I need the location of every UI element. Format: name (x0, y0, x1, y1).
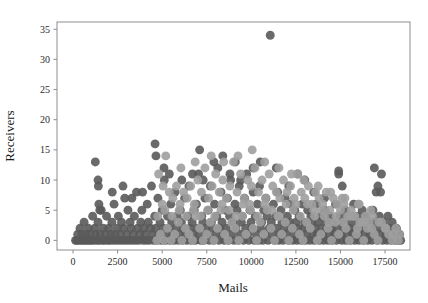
scatter-point (165, 170, 174, 179)
scatter-point (172, 182, 181, 191)
scatter-point (266, 31, 275, 40)
scatter-point (168, 194, 177, 203)
x-tick-label: 0 (71, 256, 76, 267)
scatter-point (193, 176, 202, 185)
scatter-point (224, 236, 233, 245)
scatter-point (94, 182, 103, 191)
plot-canvas: 025005000750010000125001500017500 051015… (0, 0, 428, 303)
scatter-point (108, 188, 117, 197)
scatter-point (234, 151, 243, 160)
scatter-point (277, 230, 286, 239)
scatter-point (359, 236, 368, 245)
x-tick-label: 5000 (152, 256, 172, 267)
scatter-point (299, 176, 308, 185)
scatter-point (338, 182, 347, 191)
scatter-point (209, 236, 218, 245)
x-tick-label: 2500 (108, 256, 128, 267)
scatter-point (249, 224, 258, 233)
scatter-point (151, 139, 160, 148)
scatter-point (275, 212, 284, 221)
scatter-point (188, 236, 197, 245)
scatter-point (376, 188, 385, 197)
scatter-point (208, 182, 217, 191)
scatter-point (310, 212, 319, 221)
scatter-point (267, 206, 276, 215)
scatter-point (138, 188, 147, 197)
scatter-point (119, 182, 128, 191)
scatter-point (250, 164, 259, 173)
scatter-point (160, 206, 169, 215)
scatter-point (153, 212, 162, 221)
scatter-point (339, 218, 348, 227)
scatter-point (236, 170, 245, 179)
scatter-point (195, 224, 204, 233)
scatter-point (327, 236, 336, 245)
scatter-point (143, 200, 152, 209)
scatter-point (127, 194, 136, 203)
scatter-point (207, 151, 216, 160)
scatter-point (170, 230, 179, 239)
scatter-point (233, 188, 242, 197)
scatter-point (303, 200, 312, 209)
x-axis-title: Mails (218, 280, 248, 295)
scatter-point (91, 157, 100, 166)
scatter-point (373, 236, 382, 245)
scatter-point (163, 224, 172, 233)
scatter-point (266, 224, 275, 233)
scatter-point (394, 236, 403, 245)
scatter-point (259, 230, 268, 239)
scatter-point (196, 212, 205, 221)
scatter-point (189, 206, 198, 215)
scatter-point (247, 182, 256, 191)
scatter-point (210, 212, 219, 221)
scatter-point (345, 236, 354, 245)
scatter-point (316, 230, 325, 239)
scatter-point (340, 194, 349, 203)
scatter-point (287, 170, 296, 179)
scatter-point (381, 224, 390, 233)
scatter-point (290, 194, 299, 203)
scatter-point (95, 206, 104, 215)
scatter-point (204, 194, 213, 203)
y-axis-title: Receivers (2, 110, 17, 161)
y-tick-label: 25 (40, 84, 50, 95)
scatter-point (334, 167, 343, 176)
scatter-point (147, 182, 156, 191)
scatter-point (175, 206, 184, 215)
scatter-point (183, 194, 192, 203)
scatter-point (217, 200, 226, 209)
scatter-point (367, 224, 376, 233)
scatter-point (161, 151, 170, 160)
scatter-point (159, 182, 168, 191)
x-tick-label: 10000 (239, 256, 264, 267)
scatter-point (284, 236, 293, 245)
scatter-point (168, 212, 177, 221)
scatter-point (355, 200, 364, 209)
scatter-point (225, 206, 234, 215)
scatter-point (346, 212, 355, 221)
y-tick-label: 5 (45, 205, 50, 216)
x-tick-label: 17500 (373, 256, 398, 267)
scatter-point (152, 151, 161, 160)
scatter-point (177, 236, 186, 245)
scatter-point (182, 212, 191, 221)
scatter-point (110, 200, 119, 209)
scatter-point (186, 182, 195, 191)
scatter-point (242, 230, 251, 239)
scatter-point (252, 236, 261, 245)
scatter-point (232, 212, 241, 221)
scatter-point (213, 224, 222, 233)
scatter-point (326, 188, 335, 197)
scatter-point (203, 206, 212, 215)
scatter-point (253, 212, 262, 221)
y-tick-label: 15 (40, 144, 50, 155)
y-tick-label: 0 (45, 235, 50, 246)
scatter-point (231, 224, 240, 233)
y-tick-label: 35 (40, 24, 50, 35)
scatter-point (374, 218, 383, 227)
scatter-point (201, 164, 210, 173)
x-tick-label: 12500 (283, 256, 308, 267)
scatter-point (299, 236, 308, 245)
scatter-point (370, 164, 379, 173)
scatter-point (324, 218, 333, 227)
